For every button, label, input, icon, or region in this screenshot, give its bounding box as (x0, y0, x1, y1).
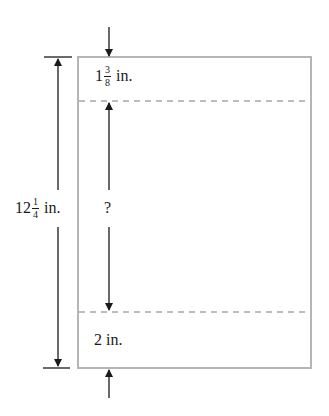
total-height-unit: in. (44, 200, 60, 216)
unknown-height-label: ? (104, 200, 111, 216)
bottom-margin-whole: 2 (94, 332, 102, 348)
top-margin-denominator: 8 (105, 77, 110, 88)
total-height-numerator: 1 (32, 197, 39, 209)
top-margin-numerator: 3 (104, 65, 111, 77)
bottom-margin-unit: in. (106, 332, 122, 348)
total-height-fraction: 1 4 (32, 197, 39, 220)
total-height-whole: 12 (15, 200, 31, 216)
paper-sheet (78, 57, 311, 368)
top-margin-fraction: 3 8 (104, 65, 111, 88)
total-height-denominator: 4 (33, 209, 38, 220)
top-margin-unit: in. (116, 68, 132, 84)
top-margin-whole: 1 (95, 68, 103, 84)
total-height-label: 12 1 4 in. (15, 195, 60, 221)
top-margin-label: 1 3 8 in. (95, 63, 132, 89)
bottom-margin-label: 2 in. (94, 331, 122, 349)
